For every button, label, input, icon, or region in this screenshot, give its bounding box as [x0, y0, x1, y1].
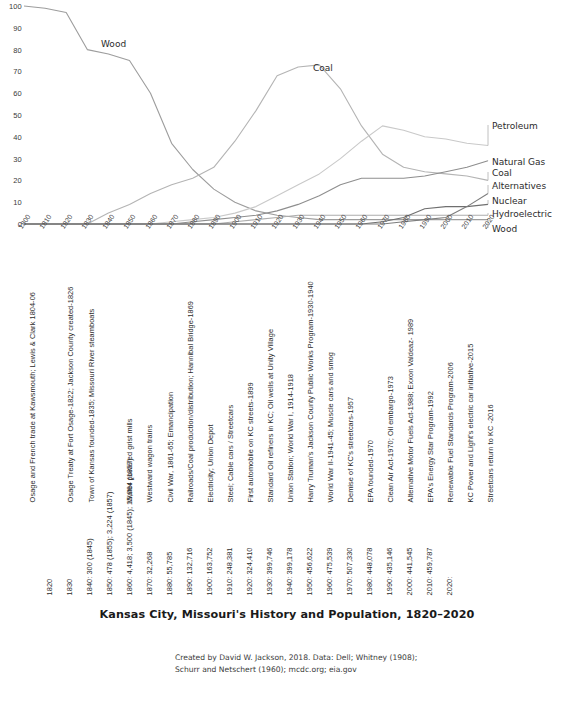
series-label-hydroelectric: Hydroelectric: [492, 209, 552, 219]
population-entry: 1920: 324,410: [246, 547, 253, 595]
series-label-coal: Coal: [492, 168, 512, 178]
population-entry: 2010: 459,787: [426, 547, 433, 595]
event-annotation: Harry Truman's Jackson County Public Wor…: [307, 281, 314, 502]
event-annotation: Standard Oil refiners in KC; Oil wells a…: [267, 329, 274, 503]
population-entry: 1980: 448,078: [366, 547, 373, 595]
series-label-petroleum: Petroleum: [492, 121, 538, 131]
population-entry: 1910: 248,381: [226, 547, 233, 595]
population-entry: 1840: 300 (1845): [86, 538, 93, 595]
population-entry: 1890: 132,716: [186, 547, 193, 595]
event-annotation: Railroads/Coal production/distribution; …: [187, 301, 194, 502]
event-annotation: Alternative Motor Fuels Act-1988; Exxon …: [407, 318, 414, 502]
event-annotation: Westward wagon trains: [146, 424, 153, 502]
series-line-wood: [24, 6, 488, 220]
credit-block: Created by David W. Jackson, 2018. Data:…: [175, 652, 555, 676]
event-annotation: EPA's Energy Star Program-1992: [427, 391, 434, 502]
credit-line-2: Schurr and Netschert (1960); mcdc.org; e…: [175, 664, 555, 676]
series-line-coal: [24, 65, 488, 224]
population-entry: 1870: 32,268: [146, 551, 153, 595]
credit-line-1: Created by David W. Jackson, 2018. Data:…: [175, 652, 555, 664]
page-title: Kansas City, Missouri's History and Popu…: [0, 608, 574, 621]
event-annotation: Steel; Cable cars / Streetcars: [227, 404, 234, 502]
series-lines: [0, 0, 574, 232]
event-annotation: Osage and French trade at Kawsmouth; Lew…: [29, 292, 36, 502]
event-annotation: Town of Kansas founded-1835; Missouri Ri…: [88, 308, 95, 502]
population-entry: 1950: 456,622: [306, 547, 313, 595]
population-entry: 1860: 4,418; 3,500 (1845); 15,064 (1857): [126, 458, 133, 595]
population-entry: 1940: 399,178: [286, 547, 293, 595]
event-annotation: EPA founded-1970: [367, 440, 374, 502]
event-annotation: First automobile on KC streets-1899: [247, 382, 254, 502]
series-line-petroleum: [24, 126, 488, 224]
population-entry: 1990: 435,146: [386, 547, 393, 595]
history-event-annotations: Osage and French trade at Kawsmouth; Lew…: [0, 252, 574, 502]
series-label-natural-gas: Natural Gas: [492, 157, 545, 167]
population-figures: 182018301840: 300 (1845)1850: 478 (1855)…: [0, 495, 574, 595]
event-annotation: World War II-1941-45; Muscle cars and sm…: [327, 352, 334, 502]
population-entry: 1960: 475,539: [326, 547, 333, 595]
event-annotation: Osage Treaty at Fort Osage-1822; Jackson…: [67, 286, 74, 502]
population-entry: 2000: 441,545: [406, 547, 413, 595]
population-entry: 2020:: [446, 576, 453, 595]
event-annotation: Clean Air Act-1970; Oil embargo-1973: [387, 376, 394, 502]
event-annotation: Streetcars return to KC -2016: [487, 404, 494, 502]
event-annotation: Demise of KC's streetcars-1957: [347, 396, 354, 502]
population-entry: 1820: [46, 578, 53, 595]
event-annotation: Renewable Fuel Standards Program-2006: [447, 362, 454, 502]
population-entry: 1830: [66, 578, 73, 595]
population-entry: 1930: 399,746: [266, 547, 273, 595]
series-label-alternatives: Alternatives: [492, 181, 546, 191]
energy-mix-chart: 1009080706050403020100 WoodCoalPetroleum…: [0, 0, 574, 232]
infographic-root: 1009080706050403020100 WoodCoalPetroleum…: [0, 0, 574, 703]
event-annotation: Civil War, 1861-65; Emancipation: [167, 391, 174, 502]
event-annotation: Union Station; World War I, 1914-1918: [287, 374, 294, 502]
series-label-nuclear: Nuclear: [492, 196, 527, 206]
population-entry: 1970: 507,330: [346, 547, 353, 595]
series-label-wood: Wood: [101, 39, 126, 49]
population-entry: 1850: 478 (1855); 3,224 (1857): [106, 491, 113, 595]
series-label-coal: Coal: [313, 63, 333, 73]
event-annotation: KC Power and Light's electric car initia…: [467, 343, 474, 502]
event-annotation: Electricity; Union Depot: [207, 424, 214, 502]
population-entry: 1880: 55,785: [166, 551, 173, 595]
population-entry: 1900: 163,752: [206, 547, 213, 595]
